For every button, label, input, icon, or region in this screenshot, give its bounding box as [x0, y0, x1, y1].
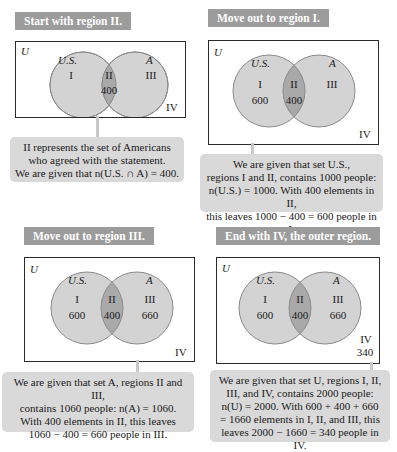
region-ii-value: 400 — [287, 309, 313, 321]
region-ii-label: II — [293, 293, 307, 305]
universe-label: U — [214, 46, 222, 58]
callout-line: regions I and II, contains 1000 people: — [204, 171, 379, 184]
region-i-label: I — [70, 293, 84, 305]
region-ii-label: II — [105, 293, 119, 305]
callout-line: n(U) = 2000. With 600 + 400 + 660 — [214, 400, 386, 413]
region-ii-label: II — [287, 78, 301, 90]
region-i-label: I — [64, 69, 78, 81]
region-i-label: I — [253, 78, 267, 90]
region-i-value: 600 — [247, 94, 273, 106]
set-us-label: U.S. — [68, 274, 87, 286]
set-a-label: A — [329, 57, 336, 69]
region-iv-label: IV — [166, 101, 178, 113]
callout-line: II represents the set of Americans — [14, 141, 180, 154]
region-iii-label: III — [329, 293, 347, 305]
region-iii-label: III — [141, 293, 159, 305]
region-ii-value: 400 — [99, 309, 125, 321]
callout-line: who agreed with the statement. — [14, 154, 180, 167]
region-ii-label: II — [102, 69, 116, 81]
callout-line: We are given that set A, regions II and … — [6, 376, 190, 402]
panel-title: Move out to region III. — [24, 227, 154, 245]
region-iv-label: IV — [359, 128, 371, 140]
universe-label: U — [21, 45, 29, 57]
venn-universe-box: U U.S. A I 600 II 400 III IV — [208, 40, 379, 145]
set-a-label: A — [146, 274, 153, 286]
region-i-value: 600 — [64, 309, 90, 321]
venn-universe-box: U U.S. A I 600 II 400 III 660 IV — [24, 257, 195, 362]
callout-region-i: We are given that set U.S., regions I an… — [200, 154, 383, 212]
callout-line: We are given that set U, regions I, II, — [214, 374, 386, 387]
region-ii-value: 400 — [281, 94, 307, 106]
panel-title: Move out to region I. — [208, 9, 329, 27]
region-iv-value: 340 — [353, 346, 377, 358]
region-i-label: I — [258, 293, 272, 305]
set-us-label: U.S. — [58, 54, 77, 66]
callout-line: 1060 − 400 = 660 people in III. — [6, 428, 190, 441]
callout-line: contains 1060 people: n(A) = 1060. — [6, 402, 190, 415]
universe-label: U — [222, 262, 230, 274]
callout-region-iii: We are given that set A, regions II and … — [2, 372, 194, 432]
region-iii-value: 660 — [137, 309, 163, 321]
region-iv-label: IV — [357, 333, 375, 345]
region-iii-value: 660 — [325, 309, 351, 321]
callout-line: = 1660 elements in I, II, and III, this — [214, 413, 386, 426]
region-iv-label: IV — [175, 346, 187, 358]
venn-universe-box: U U.S. A I 600 II 400 III 660 IV 340 — [216, 257, 380, 364]
region-iii-label: III — [142, 69, 160, 81]
callout-line: We are given that n(U.S. ∩ A) = 400. — [14, 167, 180, 180]
callout-line: With 400 elements in II, this leaves — [6, 415, 190, 428]
set-us-label: U.S. — [251, 57, 270, 69]
region-i-value: 600 — [252, 309, 278, 321]
callout-line: n(U.S.) = 1000. With 400 elements in II, — [204, 184, 379, 210]
region-iii-label: III — [323, 78, 341, 90]
venn-universe-box: U U.S. A I II 400 III IV — [15, 41, 186, 118]
panel-title: End with IV, the outer region. — [216, 227, 380, 245]
callout-line: We are given that set U.S., — [204, 158, 379, 171]
callout-region-iv: We are given that set U, regions I, II, … — [210, 370, 390, 442]
universe-label: U — [30, 263, 38, 275]
set-us-label: U.S. — [256, 274, 275, 286]
callout-line: leaves 2000 − 1660 = 340 people in IV. — [214, 426, 386, 452]
callout-line: III, and IV, contains 2000 people: — [214, 387, 386, 400]
set-a-label: A — [146, 54, 153, 66]
panel-title: Start with region II. — [15, 12, 131, 30]
callout-region-ii: II represents the set of Americans who a… — [10, 137, 184, 182]
region-ii-value: 400 — [97, 84, 121, 96]
set-a-label: A — [333, 274, 340, 286]
venn-diagram — [209, 41, 378, 144]
